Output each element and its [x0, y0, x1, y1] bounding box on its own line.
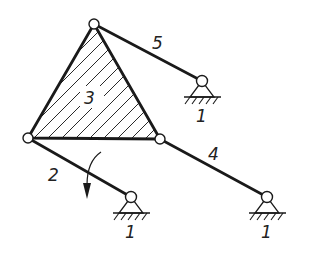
label-ground-o5: 1: [196, 106, 207, 126]
joint-b: [89, 19, 99, 29]
linkage-diagram: 3 5 4 2 1 1 1: [0, 0, 315, 260]
link-3-triangle: [0, 0, 284, 140]
label-link-2: 2: [48, 165, 59, 185]
label-ground-o2: 1: [125, 222, 136, 242]
triangle-outline: [28, 24, 160, 139]
pivot-o4: [262, 192, 273, 203]
pivot-o5: [197, 76, 208, 87]
pivot-o2: [126, 192, 137, 203]
joint-a: [23, 133, 33, 143]
joint-c: [155, 134, 165, 144]
label-link-4: 4: [208, 144, 219, 164]
label-ground-o4: 1: [261, 222, 272, 242]
link-2: [28, 138, 131, 197]
label-link-3: 3: [84, 88, 95, 108]
hatching: [0, 0, 284, 140]
label-link-5: 5: [152, 33, 163, 53]
